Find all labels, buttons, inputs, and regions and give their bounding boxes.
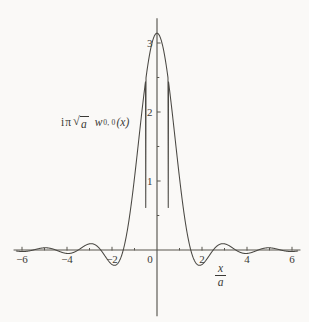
y-axis-label-argument: (x) — [117, 117, 130, 129]
x-tick-label: 6 — [289, 253, 295, 265]
x-tick-label: 0 — [147, 253, 153, 265]
x-axis-tick-labels: −6−4−20246 — [16, 253, 295, 265]
y-axis-label: iπ √ a w0, 0(x) — [61, 116, 129, 130]
x-tick-label: −4 — [61, 253, 73, 265]
y-tick-label: 2 — [147, 106, 153, 118]
y-axis-label-w: w — [95, 117, 103, 129]
x-axis-label-numerator: x — [215, 263, 226, 276]
y-tick-label: 1 — [147, 175, 153, 187]
radical-sign: √ — [73, 116, 80, 128]
radicand: a — [80, 116, 89, 130]
sqrt-icon: √ a — [73, 116, 89, 130]
y-axis-label-w-subscript: 0, 0 — [103, 119, 115, 127]
x-tick-label: 4 — [244, 253, 250, 265]
x-axis-label: x a — [215, 263, 226, 288]
y-axis-label-pi: π — [65, 117, 71, 129]
x-axis-label-denominator: a — [215, 276, 226, 288]
y-axis-label-i: i — [61, 117, 64, 129]
x-tick-label: −2 — [106, 253, 118, 265]
axes-group — [14, 19, 300, 316]
plot-canvas: −6−4−20246 123 — [0, 0, 309, 322]
y-axis-tick-labels: 123 — [147, 37, 153, 187]
figure-container: −6−4−20246 123 iπ √ a w0, 0(x) x a — [0, 0, 309, 322]
x-tick-label: −6 — [16, 253, 28, 265]
